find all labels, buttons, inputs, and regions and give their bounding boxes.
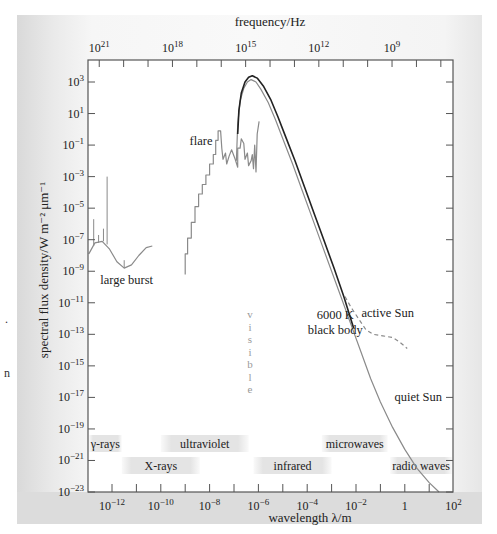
top-axis-title: frequency/Hz [235,14,306,29]
y-tick-label: 10−21 [58,451,84,467]
visible-label-letter: v [247,308,253,320]
y-tick-label: 10−11 [58,294,84,310]
y-tick-label: 10−3 [62,168,84,184]
band-label: X-rays [144,459,177,473]
y-tick-label: 10−13 [58,325,85,341]
x-tick-label: 10−12 [99,497,125,513]
y-axis-title: spectral flux density/W m⁻² μm⁻¹ [36,182,51,358]
y-tick-label: 10−15 [58,357,85,373]
annotation-6000-k: 6000 K [317,308,354,322]
band-label: infrared [274,459,312,473]
visible-label-letter: b [247,358,253,370]
visible-label-letter: i [248,346,251,358]
y-tick-label: 10−5 [62,199,84,215]
band-label: ultraviolet [180,437,230,451]
annotation-flare: flare [190,134,213,148]
visible-label-letter: l [248,371,251,383]
annotation-black-body: black body [308,323,364,337]
band-label: radio waves [392,459,450,473]
x-axis-title: wavelength λ/m [268,510,351,525]
y-tick-label: 10−1 [62,136,84,152]
y-tick-label: 103 [68,73,85,89]
y-tick-label: 10−23 [58,483,85,499]
annotation-quiet-sun: quiet Sun [394,390,442,404]
spectrum-chart: γ-raysX-raysultravioletinfraredmicrowave… [0,0,497,534]
x-tick-label: 10−8 [199,497,221,513]
y-tick-label: 10−9 [62,262,84,278]
x-tick-label: 1 [402,499,408,513]
y-tick-label: 10−7 [62,231,84,247]
band-label: γ-rays [90,437,121,451]
top-tick-label: 1015 [235,39,257,55]
visible-label-letter: i [248,321,251,333]
top-tick-label: 1012 [308,39,329,55]
top-tick-label: 109 [384,39,401,55]
visible-label-letter: e [248,383,253,395]
annotation-large-burst: large burst [100,273,153,287]
x-tick-label: 10−6 [248,497,270,513]
visible-label-letter: s [248,333,252,345]
x-tick-label: 10−10 [148,497,175,513]
annotation-active-sun: active Sun [362,306,415,320]
top-tick-label: 1018 [162,39,184,55]
top-tick-label: 1021 [89,39,110,55]
y-tick-label: 101 [68,105,85,121]
y-tick-label: 10−17 [58,388,85,404]
x-tick-label: 102 [445,497,462,513]
y-tick-label: 10−19 [58,420,85,436]
band-label: microwaves [326,437,384,451]
